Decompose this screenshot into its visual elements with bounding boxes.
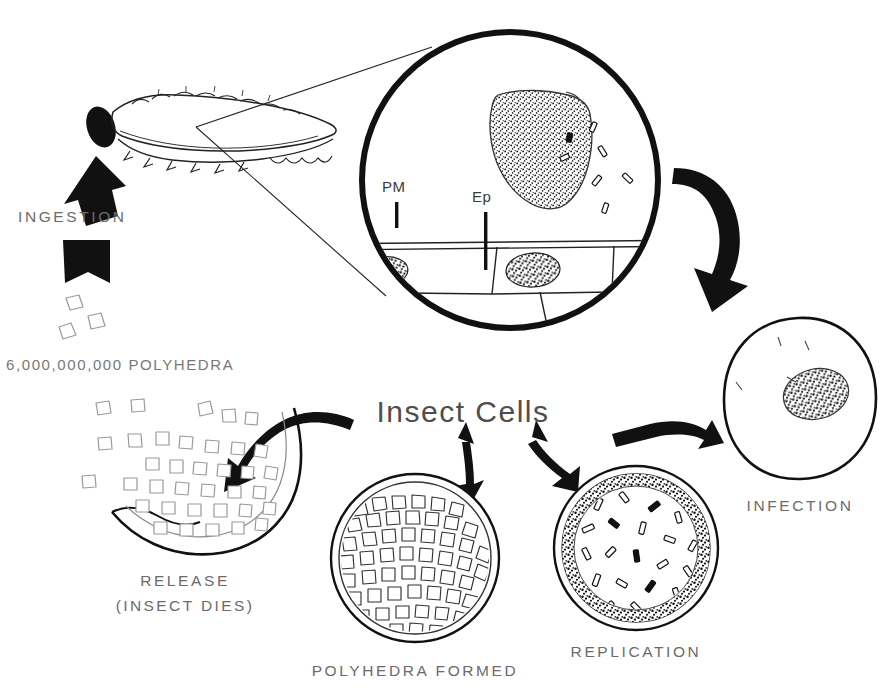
- label-insect-cells: Insect Cells: [376, 395, 549, 429]
- ingestion-arrow-lower: [63, 240, 110, 283]
- label-ep: Ep: [472, 188, 491, 205]
- label-release-sublabel: (INSECT DIES): [116, 597, 255, 615]
- diagram-canvas: INGESTION 6,000,000,000 POLYHEDRA PM Ep …: [0, 0, 886, 693]
- label-infection: INFECTION: [747, 497, 854, 515]
- arrow-to-infection: [672, 168, 748, 312]
- label-pm: PM: [382, 178, 406, 195]
- arrow-cells-to-replication: [528, 420, 580, 492]
- polyhedra-formed-cell: [331, 474, 499, 642]
- label-polyhedra-formed: POLYHEDRA FORMED: [312, 662, 519, 680]
- label-release: RELEASE: [140, 572, 230, 590]
- replication-cell: [554, 466, 718, 630]
- infection-cell: [724, 318, 876, 479]
- pm-pointer-tick: [395, 202, 398, 228]
- release-cadaver: [82, 399, 301, 554]
- label-replication: REPLICATION: [571, 643, 702, 661]
- ep-pointer-tick: [484, 212, 487, 270]
- escaping-polyhedra: [82, 399, 278, 536]
- infection-cycle-illustration: [0, 0, 886, 693]
- label-ingestion: INGESTION: [18, 208, 127, 226]
- free-polyhedra-cluster: [59, 295, 105, 339]
- arrow-cells-to-infection: [612, 420, 724, 449]
- label-polyhedra-count: 6,000,000,000 POLYHEDRA: [6, 356, 234, 373]
- larva-illustration: [81, 86, 336, 173]
